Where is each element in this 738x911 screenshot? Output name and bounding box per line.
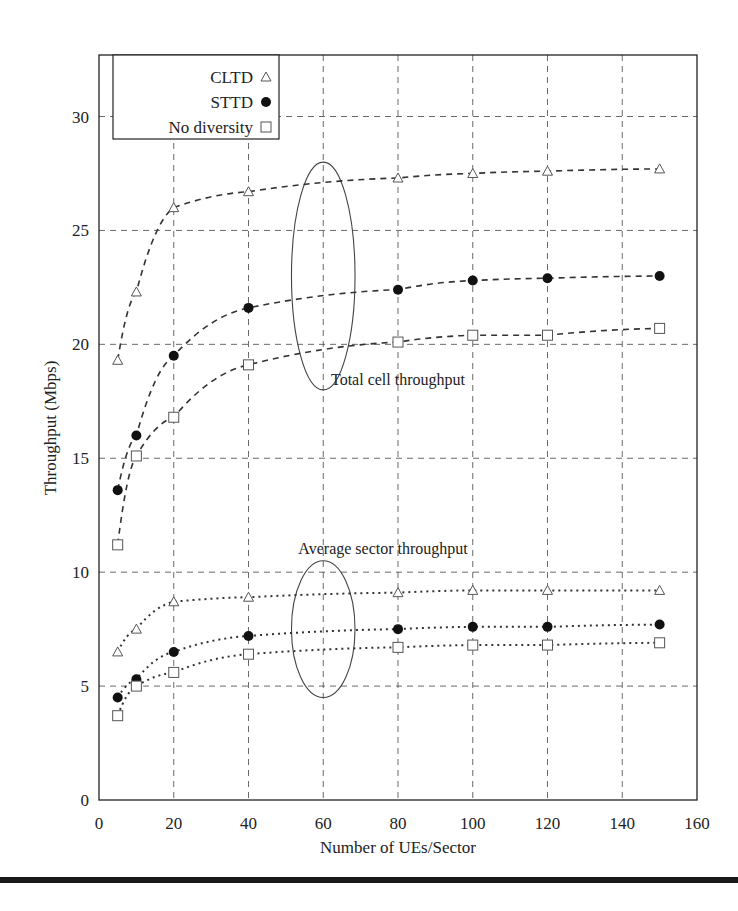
sttd-circle-marker xyxy=(543,622,553,632)
legend-no-diversity-square-marker xyxy=(261,122,271,132)
no-diversity-square-marker xyxy=(169,667,179,677)
x-tick-label: 80 xyxy=(390,814,407,833)
legend-sttd-circle-marker xyxy=(261,97,271,107)
no-diversity-square-marker xyxy=(655,638,665,648)
bottom-rule xyxy=(0,877,738,883)
no-diversity-square-marker xyxy=(131,681,141,691)
cltd-triangle-marker xyxy=(393,588,403,597)
sttd-circle-marker xyxy=(393,624,403,634)
sttd-circle-marker xyxy=(113,485,123,495)
legend-label: CLTD xyxy=(210,68,253,87)
x-tick-label: 0 xyxy=(95,814,104,833)
x-tick-label: 20 xyxy=(165,814,182,833)
sttd-circle-marker xyxy=(131,430,141,440)
sttd-circle-marker xyxy=(393,285,403,295)
sttd-circle-marker xyxy=(169,647,179,657)
cltd-triangle-marker xyxy=(543,585,553,594)
no-diversity-line xyxy=(118,328,660,544)
sttd-circle-marker xyxy=(468,622,478,632)
no-diversity-square-marker xyxy=(113,540,123,550)
no-diversity-square-marker xyxy=(468,330,478,340)
no-diversity-line xyxy=(118,643,660,716)
legend-label: No diversity xyxy=(168,118,253,137)
sttd-circle-marker xyxy=(543,273,553,283)
sttd-line xyxy=(118,625,660,698)
sttd-circle-marker xyxy=(468,276,478,286)
no-diversity-square-marker xyxy=(655,323,665,333)
cltd-line xyxy=(118,590,660,652)
cltd-triangle-marker xyxy=(131,624,141,633)
annotation-label: Total cell throughput xyxy=(331,371,466,389)
throughput-chart: 020406080100120140160051015202530 Total … xyxy=(0,0,738,911)
no-diversity-square-marker xyxy=(393,642,403,652)
sttd-circle-marker xyxy=(655,271,665,281)
no-diversity-square-marker xyxy=(543,330,553,340)
cltd-triangle-marker xyxy=(131,287,141,296)
no-diversity-square-marker xyxy=(169,412,179,422)
annotation-label: Average sector throughput xyxy=(298,540,468,558)
no-diversity-square-marker xyxy=(131,451,141,461)
cltd-triangle-marker xyxy=(113,355,123,364)
y-tick-label: 30 xyxy=(72,108,89,127)
sttd-circle-marker xyxy=(244,303,254,313)
annotations: Total cell throughputAverage sector thro… xyxy=(291,162,468,697)
no-diversity-square-marker xyxy=(393,337,403,347)
no-diversity-square-marker xyxy=(244,649,254,659)
legend-label: STTD xyxy=(211,93,254,112)
y-tick-label: 0 xyxy=(81,791,90,810)
sttd-circle-marker xyxy=(113,692,123,702)
sttd-circle-marker xyxy=(244,631,254,641)
y-tick-label: 10 xyxy=(72,563,89,582)
x-tick-label: 140 xyxy=(610,814,636,833)
sttd-circle-marker xyxy=(655,620,665,630)
sttd-circle-marker xyxy=(169,351,179,361)
y-tick-label: 25 xyxy=(72,221,89,240)
x-tick-label: 40 xyxy=(240,814,257,833)
legend: CLTDSTTDNo diversity xyxy=(113,55,279,139)
cltd-line xyxy=(118,169,660,360)
no-diversity-square-marker xyxy=(468,640,478,650)
x-tick-label: 160 xyxy=(684,814,710,833)
y-tick-label: 5 xyxy=(81,677,90,696)
no-diversity-square-marker xyxy=(543,640,553,650)
grid-lines xyxy=(99,55,697,800)
cltd-triangle-marker xyxy=(244,592,254,601)
no-diversity-square-marker xyxy=(113,711,123,721)
x-tick-label: 100 xyxy=(460,814,486,833)
x-tick-label: 120 xyxy=(535,814,561,833)
x-tick-label: 60 xyxy=(315,814,332,833)
data-series xyxy=(113,164,665,721)
y-tick-label: 20 xyxy=(72,335,89,354)
cltd-triangle-marker xyxy=(169,597,179,606)
no-diversity-square-marker xyxy=(244,360,254,370)
x-axis-label: Number of UEs/Sector xyxy=(320,838,476,857)
axis-ticks: 020406080100120140160051015202530 xyxy=(72,108,710,833)
y-tick-label: 15 xyxy=(72,449,89,468)
y-axis-label: Throughput (Mbps) xyxy=(41,361,60,496)
cltd-triangle-marker xyxy=(113,647,123,656)
